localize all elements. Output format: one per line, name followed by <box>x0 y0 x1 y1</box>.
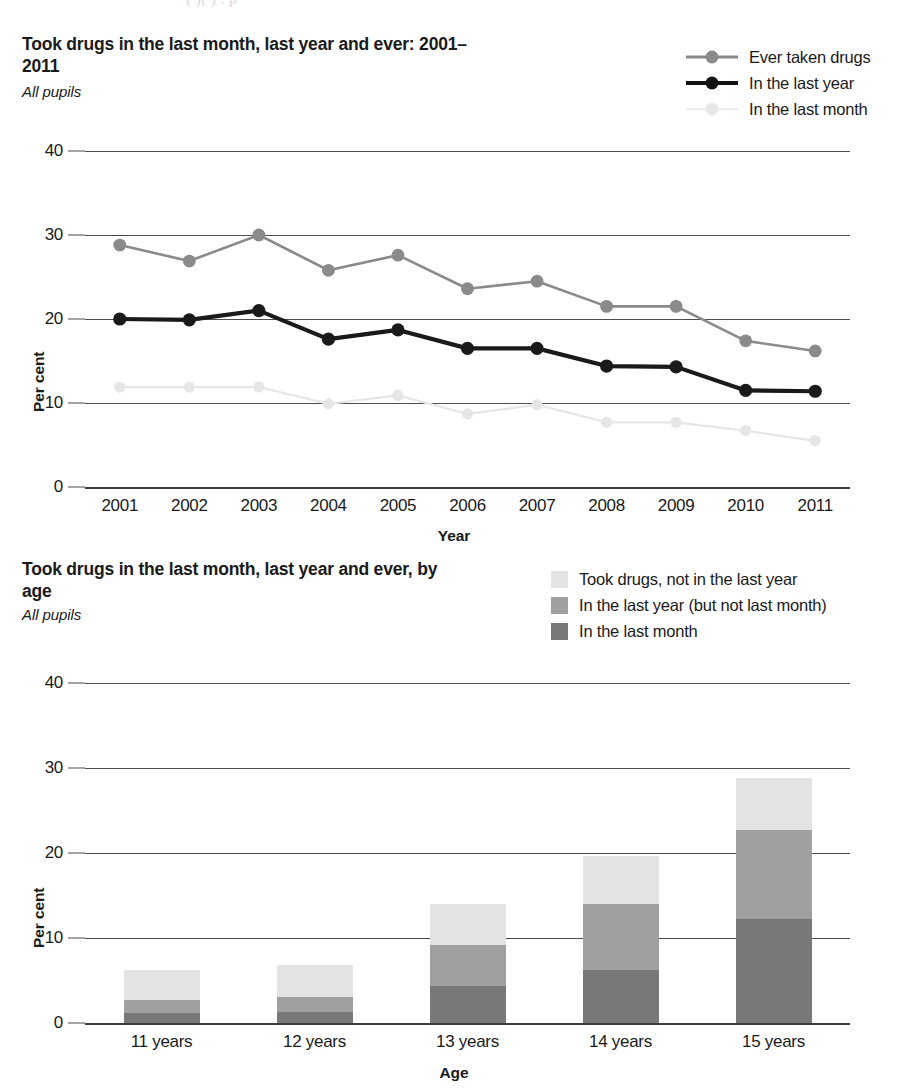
legend-item[interactable]: Took drugs, not in the last year <box>551 566 827 592</box>
bar-segment[interactable] <box>277 965 353 996</box>
data-point[interactable] <box>184 381 195 392</box>
x-tick-label: 2009 <box>658 496 695 516</box>
data-point[interactable] <box>114 381 125 392</box>
chart2-title: Took drugs in the last month, last year … <box>22 559 442 602</box>
bar-segment[interactable] <box>583 970 659 1023</box>
data-point[interactable] <box>461 282 474 295</box>
chart1-subtitle: All pupils <box>22 83 81 100</box>
data-point[interactable] <box>600 359 613 372</box>
bar[interactable] <box>583 683 659 1023</box>
y-tick-dash <box>68 319 85 320</box>
x-tick-label: 2011 <box>798 496 833 516</box>
y-tick-dash <box>68 853 85 854</box>
bar-segment[interactable] <box>124 1013 200 1023</box>
line-chart-panel: Took drugs in the last month, last year … <box>0 34 908 554</box>
x-tick-label: 2005 <box>380 496 417 516</box>
data-point[interactable] <box>252 229 265 242</box>
legend-item[interactable]: Ever taken drugs <box>686 44 871 70</box>
bar-segment[interactable] <box>583 904 659 970</box>
x-tick-label: 2008 <box>588 496 625 516</box>
bar[interactable] <box>430 683 506 1023</box>
y-tick-label: 20 <box>17 843 63 863</box>
bar-segment[interactable] <box>277 997 353 1012</box>
data-point[interactable] <box>183 313 196 326</box>
bar[interactable] <box>124 683 200 1023</box>
legend-item[interactable]: In the last month <box>551 618 827 644</box>
bar-segment[interactable] <box>430 904 506 945</box>
bar-segment[interactable] <box>124 970 200 1000</box>
data-point[interactable] <box>462 408 473 419</box>
legend-label: In the last month <box>579 622 698 641</box>
bar-segment[interactable] <box>736 919 812 1023</box>
data-point[interactable] <box>323 398 334 409</box>
chart1-plot-area: 010203040 200120022003200420052006200720… <box>85 151 850 487</box>
data-point[interactable] <box>739 384 752 397</box>
x-tick-label: 2002 <box>171 496 208 516</box>
bar-segment[interactable] <box>277 1012 353 1023</box>
bar-segment[interactable] <box>736 830 812 919</box>
y-tick-dash <box>68 1023 85 1024</box>
data-point[interactable] <box>809 345 822 358</box>
data-point[interactable] <box>113 312 126 325</box>
data-point[interactable] <box>670 300 683 313</box>
data-point[interactable] <box>461 342 474 355</box>
data-point[interactable] <box>253 381 264 392</box>
data-point[interactable] <box>322 333 335 346</box>
chart1-legend: Ever taken drugs In the last year In the… <box>686 44 871 122</box>
y-tick-dash <box>68 938 85 939</box>
data-point[interactable] <box>391 323 404 336</box>
data-point[interactable] <box>531 399 542 410</box>
legend-item[interactable]: In the last year (but not last month) <box>551 592 827 618</box>
data-point[interactable] <box>392 390 403 401</box>
chart1-title: Took drugs in the last month, last year … <box>22 34 492 77</box>
data-point[interactable] <box>739 334 752 347</box>
legend-label: In the last year (but not last month) <box>579 596 827 615</box>
data-point[interactable] <box>252 304 265 317</box>
bar[interactable] <box>277 683 353 1023</box>
data-point[interactable] <box>671 417 682 428</box>
gridline <box>85 1023 850 1025</box>
x-tick-label: 11 years <box>131 1032 193 1052</box>
line-marker-icon <box>686 76 738 90</box>
data-point[interactable] <box>183 255 196 268</box>
data-point[interactable] <box>322 264 335 277</box>
bar[interactable] <box>736 683 812 1023</box>
data-point[interactable] <box>531 275 544 288</box>
chart2-subtitle: All pupils <box>22 606 81 623</box>
y-tick-dash <box>68 768 85 769</box>
data-point[interactable] <box>392 249 405 262</box>
bar-segment[interactable] <box>124 1000 200 1013</box>
x-tick-label: 2007 <box>519 496 556 516</box>
legend-label: Ever taken drugs <box>749 48 871 67</box>
clipped-header-text: ( )( ) . p <box>186 0 237 8</box>
bar-segment[interactable] <box>736 778 812 830</box>
legend-label: Took drugs, not in the last year <box>579 570 797 589</box>
legend-swatch-icon <box>551 623 568 640</box>
data-point[interactable] <box>530 342 543 355</box>
y-tick-dash <box>68 235 85 236</box>
x-tick-label: 12 years <box>283 1032 346 1052</box>
bar-chart-panel: Took drugs in the last month, last year … <box>0 556 908 1089</box>
data-point[interactable] <box>809 385 822 398</box>
bar-segment[interactable] <box>430 986 506 1023</box>
data-point[interactable] <box>670 360 683 373</box>
legend-item[interactable]: In the last year <box>686 70 871 96</box>
y-tick-label: 10 <box>17 928 63 948</box>
line-marker-icon <box>686 50 738 64</box>
data-point[interactable] <box>810 435 821 446</box>
bar-segment[interactable] <box>430 945 506 986</box>
bar-segment[interactable] <box>583 856 659 904</box>
data-point[interactable] <box>113 239 126 252</box>
data-point[interactable] <box>601 417 612 428</box>
figure-page: ( )( ) . p Took drugs in the last month,… <box>0 0 908 1089</box>
gridline <box>85 487 850 489</box>
x-tick-label: 2003 <box>241 496 278 516</box>
legend-label: In the last month <box>749 100 868 119</box>
legend-item[interactable]: In the last month <box>686 96 871 122</box>
data-point[interactable] <box>600 300 613 313</box>
data-point[interactable] <box>740 425 751 436</box>
y-tick-dash <box>68 151 85 152</box>
x-tick-label: 2010 <box>727 496 764 516</box>
chart2-x-axis-title: Age <box>0 1064 908 1082</box>
y-tick-label: 0 <box>17 477 63 497</box>
